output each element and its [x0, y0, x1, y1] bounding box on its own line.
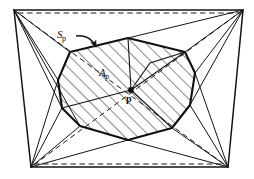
label-a-p-subscript: p [105, 72, 109, 81]
label-s-p: Sp [57, 25, 66, 43]
geometric-figure: Sp Ap p [0, 0, 254, 179]
label-point-p: p [126, 94, 132, 104]
label-point-p-symbol: p [126, 93, 132, 104]
figure-canvas [0, 0, 254, 179]
label-s-p-subscript: p [62, 34, 66, 43]
center-point-marker [128, 87, 133, 92]
label-a-p: Ap [99, 63, 109, 81]
